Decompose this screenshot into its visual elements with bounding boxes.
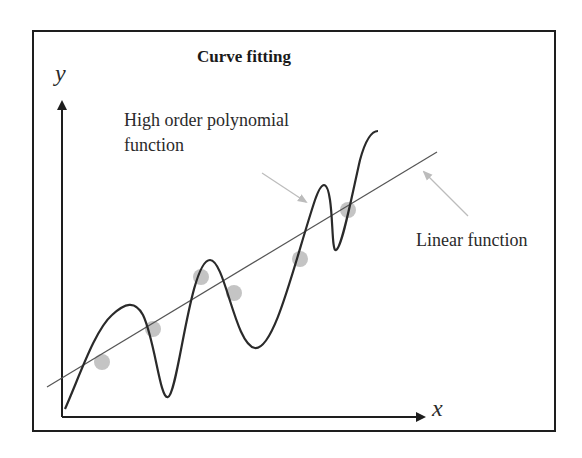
polynomial-curve: [65, 131, 378, 409]
polynomial-label-line2: function: [124, 135, 184, 155]
data-point: [94, 354, 110, 370]
x-axis-label: x: [431, 395, 443, 421]
curve-fitting-diagram: Curve fitting y x High order polynomial …: [0, 0, 582, 458]
polynomial-annotation-arrow: [262, 173, 306, 202]
polynomial-label-line1: High order polynomial: [124, 110, 289, 130]
linear-function-label: Linear function: [416, 230, 527, 250]
y-axis-label: y: [53, 60, 66, 86]
linear-annotation-arrow: [424, 172, 468, 216]
chart-title: Curve fitting: [197, 47, 291, 66]
linear-function-line: [47, 152, 437, 387]
